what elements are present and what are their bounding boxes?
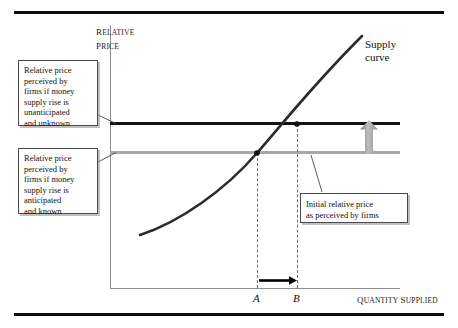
unanticipated-price-line (110, 122, 400, 125)
dropline-b (297, 124, 298, 288)
callout-anticipated-line2: perceived by (24, 164, 92, 175)
callout-unanticipated-line6: and unknown (24, 118, 92, 129)
callout-unanticipated-line3: firms if money (24, 86, 92, 97)
x-axis (110, 288, 400, 289)
y-axis-title: RELATIVE PRICE (96, 24, 134, 52)
callout-anticipated-line4: supply rise is (24, 185, 92, 196)
leader-line-initial (311, 155, 322, 192)
callout-unanticipated-line4: supply rise is (24, 97, 92, 108)
x-axis-title: QUANTITY SUPPLIED (357, 292, 438, 306)
callout-unanticipated-line5: unanticipated (24, 107, 92, 118)
price-rise-arrow-shape (360, 120, 378, 154)
callout-anticipated-line5: anticipated (24, 195, 92, 206)
x-axis-title-q: Q (357, 295, 364, 305)
x-axis-title-quantity-rest: UANTITY (364, 296, 399, 305)
callout-anticipated-price: Relative price perceived by firms if mon… (18, 148, 98, 214)
top-rule (14, 11, 444, 14)
y-axis-title-line1-rest: ELATIVE (102, 28, 134, 37)
quantity-label-b: B (293, 292, 300, 304)
callout-unanticipated-line2: perceived by (24, 76, 92, 87)
callout-initial-price: Initial relative price as perceived by f… (300, 193, 408, 223)
y-axis-title-line2-rest: RICE (101, 42, 119, 51)
x-axis-title-supplied-rest: UPPLIED (406, 296, 438, 305)
quantity-label-a: A (253, 292, 260, 304)
callout-anticipated-line6: and known (24, 206, 92, 217)
price-rise-arrow (360, 120, 378, 154)
callout-anticipated-line3: firms if money (24, 174, 92, 185)
supply-curve-label: Supply curve (365, 38, 396, 63)
supply-curve-label-line2: curve (365, 51, 396, 64)
anticipated-price-line (110, 151, 400, 154)
callout-unanticipated-line1: Relative price (24, 65, 92, 76)
figure-canvas: RELATIVE PRICE QUANTITY SUPPLIED Supply … (0, 0, 458, 328)
bottom-rule (14, 313, 444, 316)
callout-initial-line1: Initial relative price (306, 199, 402, 210)
supply-curve-label-line1: Supply (365, 38, 396, 51)
callout-anticipated-line1: Relative price (24, 153, 92, 164)
callout-unanticipated-price: Relative price perceived by firms if mon… (18, 60, 98, 126)
quantity-shift-arrow (259, 276, 297, 285)
dropline-a (257, 153, 258, 288)
y-axis (110, 25, 111, 289)
callout-initial-line2: as perceived by firms (306, 210, 402, 221)
